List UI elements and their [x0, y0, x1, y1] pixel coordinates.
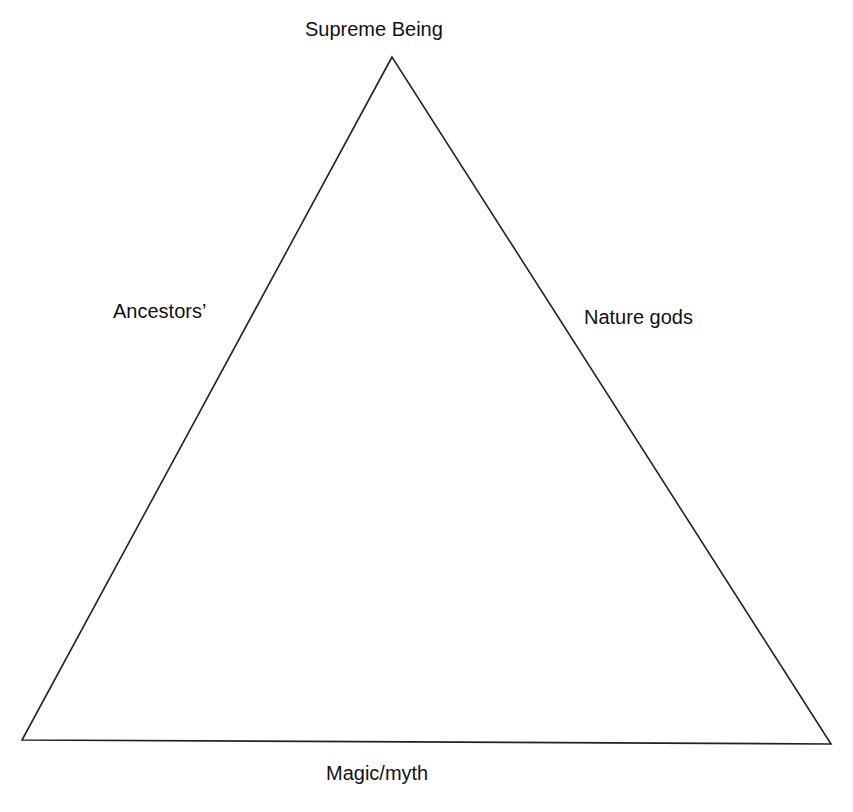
label-supreme-being: Supreme Being	[305, 18, 443, 41]
label-ancestors: Ancestors’	[113, 300, 206, 323]
triangle-shape	[22, 57, 831, 744]
label-nature-gods: Nature gods	[584, 306, 693, 329]
triangle-diagram	[0, 0, 853, 812]
label-magic-myth: Magic/myth	[326, 762, 428, 785]
